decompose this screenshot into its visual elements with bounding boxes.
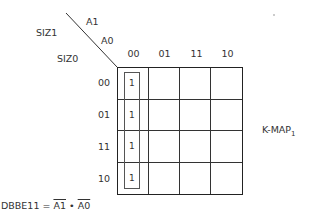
- kmap-cell: [180, 100, 211, 132]
- kmap-cell: [149, 163, 180, 195]
- kmap-cell: [180, 131, 211, 163]
- kmap-cell: [149, 100, 180, 132]
- grouping-loop: [124, 72, 140, 189]
- col-header-00: 00: [118, 48, 149, 59]
- row-header-01: 01: [86, 109, 110, 120]
- label-siz0: SIZ0: [57, 53, 78, 64]
- kmap-cell: [149, 68, 180, 100]
- col-header-10: 10: [212, 48, 243, 59]
- row-header-10: 10: [86, 173, 110, 184]
- kmap-cell: [211, 131, 242, 163]
- equation-operator: •: [69, 200, 75, 211]
- kmap-cell: [180, 68, 211, 100]
- kmap-cell: [149, 131, 180, 163]
- equation-lhs: DBBE11 =: [1, 200, 50, 211]
- row-header-11: 11: [86, 141, 110, 152]
- kmap-cell: [211, 163, 242, 195]
- label-a1: A1: [86, 16, 99, 27]
- label-a0: A0: [101, 35, 114, 46]
- equation-term1: A1: [53, 200, 66, 211]
- equation: DBBE11 = A1 • A0: [1, 200, 90, 211]
- kmap-cell: [211, 100, 242, 132]
- col-header-11: 11: [181, 48, 212, 59]
- map-label: K-MAP1: [262, 124, 296, 138]
- equation-term2: A0: [78, 200, 91, 211]
- speck: [273, 14, 275, 16]
- kmap-cell: [180, 163, 211, 195]
- row-header-00: 00: [86, 77, 110, 88]
- col-header-01: 01: [149, 48, 180, 59]
- kmap-cell: [211, 68, 242, 100]
- label-siz1: SIZ1: [36, 27, 57, 38]
